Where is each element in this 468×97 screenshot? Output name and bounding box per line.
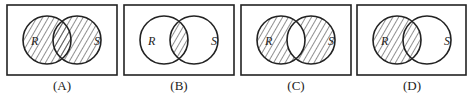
set-r-label: R xyxy=(30,34,39,48)
set-s-label: S xyxy=(328,34,334,48)
panel-caption: (B) xyxy=(123,78,235,94)
venn-diagram-b: R S xyxy=(123,0,235,78)
venn-diagram-d: R S xyxy=(356,0,468,78)
set-s-label: S xyxy=(211,34,217,48)
set-s-label: S xyxy=(444,34,450,48)
venn-panel-a: R S (A) xyxy=(6,0,118,97)
set-r-label: R xyxy=(147,34,156,48)
venn-diagram-c: R S xyxy=(240,0,352,78)
panel-caption: (D) xyxy=(356,78,468,94)
set-s-label: S xyxy=(94,34,100,48)
venn-panel-c: R S (C) xyxy=(240,0,352,97)
panel-caption: (A) xyxy=(6,78,118,94)
set-r-label: R xyxy=(264,34,273,48)
venn-panel-d: R S (D) xyxy=(356,0,468,97)
set-r-label: R xyxy=(380,34,389,48)
venn-panel-b: R S (B) xyxy=(123,0,235,97)
panel-caption: (C) xyxy=(240,78,352,94)
venn-diagram-a: R S xyxy=(6,0,118,78)
